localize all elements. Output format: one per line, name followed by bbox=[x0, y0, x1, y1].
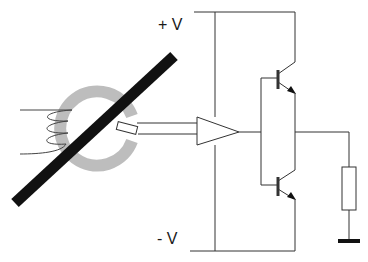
negative-supply-label: - V bbox=[157, 230, 178, 247]
base-drive-lines bbox=[239, 78, 278, 185]
load-resistor bbox=[342, 167, 356, 210]
hall-sensor bbox=[116, 122, 137, 135]
transistor-lower bbox=[278, 170, 296, 251]
circuit-diagram: + V - V bbox=[0, 0, 368, 262]
ground-icon bbox=[338, 239, 360, 243]
sensor-signal-lines bbox=[137, 123, 197, 134]
transistor-upper bbox=[278, 12, 296, 170]
positive-supply-label: + V bbox=[158, 16, 183, 33]
amplifier bbox=[197, 117, 239, 145]
output-line bbox=[295, 132, 349, 240]
conductor-bar bbox=[15, 56, 174, 203]
